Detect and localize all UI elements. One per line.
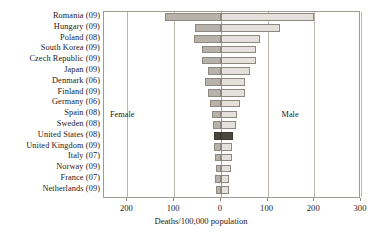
bar-male: [221, 132, 233, 140]
bar-female: [194, 35, 221, 43]
x-axis-tick: [126, 198, 127, 201]
category-label: Finland (09): [0, 87, 100, 98]
x-axis-tick: [220, 198, 221, 201]
x-axis-tick-label: 100: [260, 203, 273, 213]
x-axis-tick-label: 100: [167, 203, 180, 213]
bar-male: [221, 89, 245, 97]
x-axis-tick-label: 0: [218, 203, 222, 213]
category-label: Italy (07): [0, 151, 100, 162]
bar-male: [221, 175, 229, 183]
x-axis-tick-label: 300: [354, 203, 367, 213]
bar-female: [214, 143, 221, 151]
category-label: Poland (08): [0, 33, 100, 44]
x-axis-title: Deaths/100,000 population: [0, 216, 380, 226]
bar-female: [214, 132, 221, 140]
bar-male: [221, 57, 256, 65]
category-label: Sweden (08): [0, 119, 100, 130]
chart-container: Romania (09)Hungary (09)Poland (08)South…: [0, 0, 380, 246]
gridline: [361, 12, 362, 197]
x-axis-title-text: Deaths/100,000 population: [132, 216, 247, 226]
bar-male: [221, 35, 260, 43]
category-label: Romania (09): [0, 11, 100, 22]
category-label: South Korea (09): [0, 43, 100, 54]
bar-male: [221, 186, 229, 194]
bar-row: [104, 109, 359, 120]
bar-row: [104, 131, 359, 142]
category-axis-labels: Romania (09)Hungary (09)Poland (08)South…: [0, 11, 100, 195]
x-axis-tick-labels: 2001000100200300: [0, 203, 380, 215]
bar-female: [202, 46, 221, 54]
bar-row: [104, 163, 359, 174]
bar-row: [104, 23, 359, 34]
bar-male: [221, 46, 257, 54]
x-axis-tick: [173, 198, 174, 201]
bar-male: [221, 67, 250, 75]
bar-female: [210, 100, 221, 108]
bar-male: [221, 100, 240, 108]
bar-female: [202, 57, 221, 65]
bar-male: [221, 121, 236, 129]
bar-row: [104, 44, 359, 55]
x-axis-tick: [313, 198, 314, 201]
category-label: Hungary (09): [0, 22, 100, 33]
bar-female: [213, 121, 220, 129]
category-label: Germany (06): [0, 97, 100, 108]
x-axis-tick-label: 200: [120, 203, 133, 213]
bar-male: [221, 13, 314, 21]
bar-row: [104, 120, 359, 131]
category-label: France (07): [0, 173, 100, 184]
bar-male: [221, 24, 280, 32]
bar-male: [221, 143, 232, 151]
category-label: Czech Republic (09): [0, 54, 100, 65]
bar-female: [165, 13, 221, 21]
category-label: United Kingdom (09): [0, 141, 100, 152]
bar-row: [104, 98, 359, 109]
category-label: Norway (09): [0, 162, 100, 173]
x-axis-ticks: [103, 198, 360, 202]
category-label: United States (08): [0, 130, 100, 141]
bar-male: [221, 111, 237, 119]
bar-male: [221, 78, 245, 86]
bar-row: [104, 185, 359, 196]
bar-row: [104, 34, 359, 45]
bar-male: [221, 154, 232, 162]
x-axis-tick: [360, 198, 361, 201]
category-label: Netherlands (09): [0, 184, 100, 195]
bar-row: [104, 174, 359, 185]
annotation-female: Female: [110, 110, 134, 119]
bar-row: [104, 88, 359, 99]
category-label: Denmark (06): [0, 76, 100, 87]
bar-female: [195, 24, 221, 32]
bar-row: [104, 66, 359, 77]
plot-area: Female Male: [103, 11, 360, 198]
annotation-male: Male: [282, 110, 299, 119]
category-label: Japan (09): [0, 65, 100, 76]
bar-female: [208, 67, 221, 75]
bar-row: [104, 77, 359, 88]
x-axis-tick-label: 200: [307, 203, 320, 213]
bar-female: [208, 89, 221, 97]
x-axis-tick: [267, 198, 268, 201]
bar-row: [104, 12, 359, 23]
bar-male: [221, 165, 231, 173]
bar-row: [104, 142, 359, 153]
bar-female: [205, 78, 220, 86]
bar-row: [104, 152, 359, 163]
bar-female: [212, 111, 221, 119]
bar-row: [104, 55, 359, 66]
bar-rows: [104, 12, 359, 197]
category-label: Spain (08): [0, 108, 100, 119]
